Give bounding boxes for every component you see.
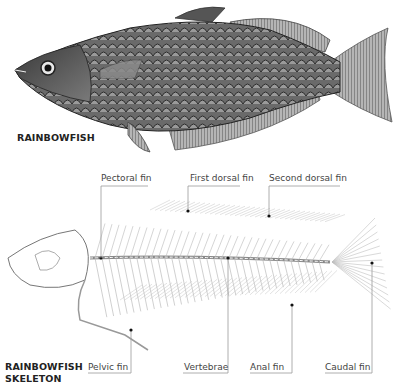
skeleton-title-line1: RAINBOWFISH [5,361,83,373]
label-anal-fin: Anal fin [250,362,284,373]
rainbowfish-body-illustration [0,0,397,170]
label-pectoral-fin: Pectoral fin [101,173,152,184]
label-first-dorsal-fin: First dorsal fin [190,173,254,184]
label-caudal-fin: Caudal fin [325,362,370,373]
rainbowfish-title: RAINBOWFISH [17,132,95,144]
label-pelvic-fin: Pelvic fin [88,362,128,373]
skeleton-title-line2: SKELETON [5,373,83,385]
label-second-dorsal-fin: Second dorsal fin [269,173,347,184]
rainbowfish-skeleton-title: RAINBOWFISH SKELETON [5,361,83,385]
label-vertebrae: Vertebrae [184,362,228,373]
